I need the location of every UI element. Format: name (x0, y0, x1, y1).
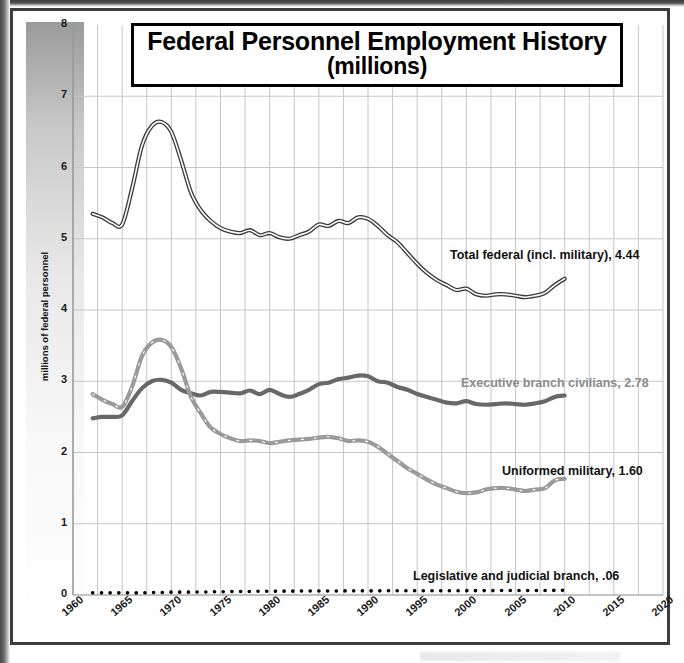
series-annotation-label: Total federal (incl. military), 4.44 (450, 248, 639, 262)
series-annotation-label: Legislative and judicial branch, .06 (413, 569, 619, 583)
chart-plot-area (13, 11, 667, 642)
series-stroke (93, 122, 565, 298)
scanned-chart-page: Federal Personnel Employment History (mi… (0, 0, 684, 663)
series-line-4 (93, 590, 565, 593)
chart-subtitle: (millions) (138, 55, 616, 78)
y-axis-tick-label: 8 (41, 17, 67, 29)
y-axis-tick-label: 0 (41, 587, 67, 599)
y-axis-title: millions of federal personnel (39, 242, 50, 392)
chart-title-box: Federal Personnel Employment History (mi… (131, 23, 623, 87)
chart-title: Federal Personnel Employment History (138, 29, 616, 55)
scan-artifact-smudge (420, 652, 620, 661)
chart-frame: Federal Personnel Employment History (mi… (10, 8, 670, 645)
series-annotation-label: Uniformed military, 1.60 (502, 464, 643, 478)
series-line-3 (93, 340, 565, 493)
y-axis-tick-label: 3 (41, 373, 67, 385)
scan-edge-shadow-left (0, 0, 10, 663)
y-axis-tick-label: 5 (41, 231, 67, 243)
grid-lines (73, 25, 663, 595)
y-axis-tick-label: 2 (41, 445, 67, 457)
scan-edge-shadow-top (0, 0, 684, 7)
series-stroke (93, 340, 565, 493)
series-stroke (93, 122, 565, 298)
series-line-1 (93, 122, 565, 298)
y-axis-tick-label: 1 (41, 516, 67, 528)
y-axis-tick-label: 6 (41, 160, 67, 172)
y-axis-tick-label: 4 (41, 302, 67, 314)
series-stroke (93, 340, 565, 493)
y-axis-tick-label: 7 (41, 88, 67, 100)
series-stroke (93, 590, 565, 593)
series-annotation-label: Executive branch civilians, 2.78 (461, 376, 649, 390)
series-paths (93, 122, 565, 593)
